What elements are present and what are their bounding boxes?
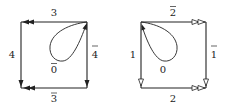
double-hollow-arrow-right-icon [192,20,205,25]
right-loop [141,22,177,61]
double-arrow-left-icon [22,20,34,25]
left-loop [50,22,87,61]
right-bottom-label: 2 [170,93,176,104]
left-top-label: 3 [51,7,57,18]
hollow-arrow-down-icon [139,79,144,86]
diagram-canvas: 3 4 4 3 0 [0,0,228,110]
right-square: 2 1 1 2 0 [130,7,217,105]
left-square: 3 4 4 3 0 [9,7,98,104]
double-hollow-arrow-right-icon [192,86,205,91]
right-top-label: 2 [170,7,176,18]
left-loop-label: 0 [51,64,57,75]
right-left-label: 1 [130,49,136,60]
right-loop-label: 0 [160,64,166,75]
double-arrow-left-icon [23,86,35,91]
right-right-label: 1 [211,49,217,60]
loop-arrow-icon [83,23,88,30]
loop-arrow-icon [142,24,146,31]
left-right-label: 4 [92,49,98,60]
left-left-label: 4 [9,49,15,60]
arrow-down-icon [85,80,90,87]
hollow-arrow-down-icon [204,79,209,86]
left-bottom-label: 3 [51,93,57,104]
arrow-down-icon [19,80,24,87]
